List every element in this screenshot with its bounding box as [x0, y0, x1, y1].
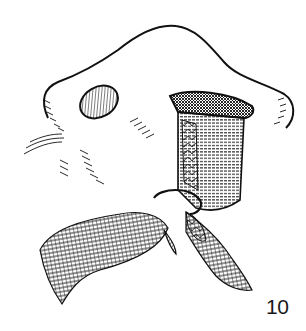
left-tissue-arm — [40, 213, 168, 304]
left-nostril — [74, 79, 124, 125]
right-ala-shading — [274, 98, 286, 124]
central-flap — [164, 230, 176, 254]
figure-number: 10 — [266, 296, 288, 317]
cartilage-segment — [182, 120, 198, 190]
surgical-nose-illustration — [0, 0, 306, 331]
columella-shading — [60, 118, 154, 184]
